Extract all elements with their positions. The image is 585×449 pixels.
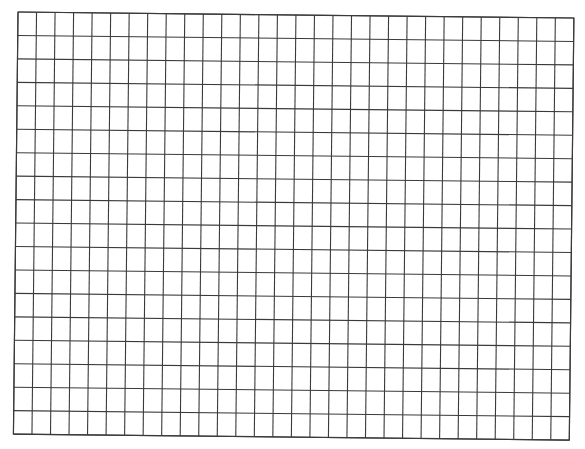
grid-lines-group (13, 12, 573, 440)
graph-paper-grid (0, 0, 585, 449)
